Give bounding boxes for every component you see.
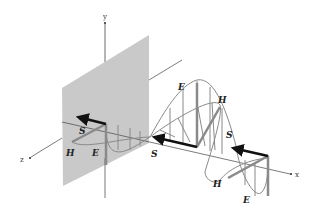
h-vector-right (228, 156, 268, 178)
z-axis: z (20, 138, 62, 164)
label-h-right: H (212, 179, 222, 189)
label-s-left: S (79, 126, 86, 136)
y-axis-label: y (102, 13, 107, 21)
label-e-right: E (242, 195, 250, 205)
em-wave-diagram: y z x (0, 0, 316, 215)
label-e-mid: E (177, 82, 185, 92)
label-e-left: E (91, 148, 99, 158)
h-vector-mid (197, 107, 220, 147)
x-axis-label: x (295, 171, 299, 179)
label-h-left: H (65, 148, 75, 158)
z-axis-label: z (20, 156, 24, 164)
diagram-canvas: y z x (0, 0, 316, 215)
label-s-mid-left: S (151, 149, 158, 159)
s-vector-right (237, 149, 268, 156)
s-vector-mid (158, 138, 197, 147)
label-h-mid: H (217, 95, 227, 105)
y-axis: y (102, 13, 107, 62)
back-axis-line (149, 60, 182, 80)
label-s-mid-right: S (226, 130, 233, 140)
